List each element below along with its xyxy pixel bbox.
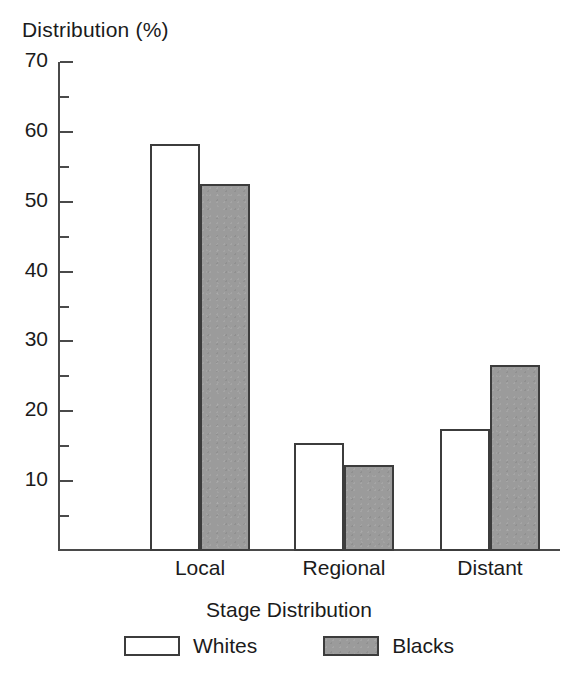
bar-distant-blacks [490, 365, 540, 551]
y-axis-tick-label: 50 [25, 188, 48, 212]
bar-chart: Distribution (%) 70605040302010 LocalReg… [0, 0, 578, 679]
legend-swatch-blacks [323, 636, 379, 656]
x-axis-category-labels: LocalRegionalDistant [58, 556, 560, 590]
y-axis-tick-label: 70 [25, 48, 48, 72]
y-axis-tick-label: 10 [25, 467, 48, 491]
bar-regional-whites [294, 443, 344, 551]
legend-label-whites: Whites [193, 634, 257, 658]
y-axis-tick-label: 20 [25, 397, 48, 421]
plot-area [58, 62, 560, 551]
legend-swatch-whites [124, 636, 180, 656]
bars-layer [58, 62, 560, 551]
y-axis-tick-labels: 70605040302010 [0, 62, 48, 551]
bar-distant-whites [440, 429, 490, 551]
x-axis-label-distant: Distant [457, 556, 522, 580]
x-axis-label-regional: Regional [303, 556, 386, 580]
y-axis-tick-label: 30 [25, 327, 48, 351]
bar-local-blacks [200, 184, 250, 551]
y-axis-tick-label: 60 [25, 118, 48, 142]
chart-legend: WhitesBlacks [0, 634, 578, 658]
legend-item-whites: Whites [124, 634, 257, 658]
y-axis-title: Distribution (%) [22, 18, 169, 42]
bar-regional-blacks [344, 465, 394, 551]
legend-item-blacks: Blacks [323, 634, 454, 658]
x-axis-label-local: Local [175, 556, 225, 580]
legend-label-blacks: Blacks [392, 634, 454, 658]
x-axis-title: Stage Distribution [0, 598, 578, 622]
y-axis-tick-label: 40 [25, 258, 48, 282]
bar-local-whites [150, 144, 200, 551]
